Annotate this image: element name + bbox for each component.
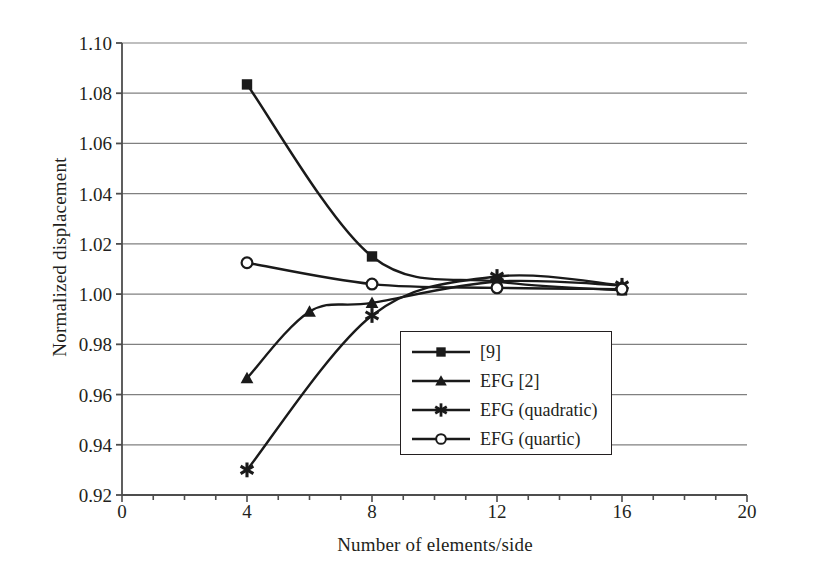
legend-label: EFG (quadratic) xyxy=(480,401,597,419)
data-point-open-circle xyxy=(242,257,253,268)
y-tick-label: 1.10 xyxy=(34,34,112,53)
data-point-filled-square xyxy=(367,251,377,261)
data-point-filled-square xyxy=(242,79,252,89)
legend-item[interactable]: EFG (quadratic) xyxy=(401,395,611,424)
y-tick-label: 1.04 xyxy=(34,184,112,203)
x-tick-label: 12 xyxy=(474,502,520,521)
legend-marker-filled-triangle-icon xyxy=(410,371,472,391)
series-line-0 xyxy=(247,84,622,290)
data-point-open-circle xyxy=(436,434,446,444)
y-tick-label: 0.96 xyxy=(34,385,112,404)
x-tick-label: 16 xyxy=(599,502,645,521)
data-point-open-circle xyxy=(367,279,378,290)
data-point-filled-triangle xyxy=(303,305,316,316)
x-tick-label: 0 xyxy=(99,502,145,521)
x-axis-title: Number of elements/side xyxy=(122,534,748,556)
chart-legend: [9]EFG [2]EFG (quadratic)EFG (quartic) xyxy=(400,331,612,455)
chart-figure: Normalized displacement 0.920.940.960.98… xyxy=(0,0,820,582)
legend-marker-open-circle-icon xyxy=(410,429,472,449)
x-tick-label: 20 xyxy=(724,502,770,521)
legend-item[interactable]: EFG (quartic) xyxy=(401,424,611,453)
y-tick-label: 1.06 xyxy=(34,134,112,153)
legend-label: EFG [2] xyxy=(480,372,540,390)
y-tick-label: 0.94 xyxy=(34,435,112,454)
legend-item[interactable]: EFG [2] xyxy=(401,366,611,395)
legend-label: [9] xyxy=(480,343,501,361)
legend-marker-filled-square-icon xyxy=(410,342,472,362)
data-point-filled-square xyxy=(436,347,445,356)
legend-label: EFG (quartic) xyxy=(480,430,580,448)
y-tick-label: 1.08 xyxy=(34,84,112,103)
x-tick-label: 8 xyxy=(349,502,395,521)
y-axis-tick-labels: 0.920.940.960.981.001.021.041.061.081.10 xyxy=(34,0,112,582)
y-tick-label: 0.98 xyxy=(34,335,112,354)
legend-marker-asterisk-icon xyxy=(410,400,472,420)
data-point-open-circle xyxy=(617,284,628,295)
y-tick-label: 1.00 xyxy=(34,285,112,304)
data-point-open-circle xyxy=(492,282,503,293)
y-tick-label: 1.02 xyxy=(34,234,112,253)
x-tick-label: 4 xyxy=(224,502,270,521)
legend-item[interactable]: [9] xyxy=(401,337,611,366)
